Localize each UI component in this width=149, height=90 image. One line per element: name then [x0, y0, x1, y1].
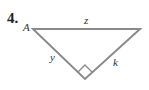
- vertex-label-a: A: [23, 21, 30, 33]
- right-angle-marker: [78, 65, 92, 72]
- side-label-k: k: [113, 56, 118, 68]
- right-triangle: [0, 0, 149, 90]
- side-label-z: z: [84, 14, 88, 26]
- side-label-y: y: [50, 51, 55, 63]
